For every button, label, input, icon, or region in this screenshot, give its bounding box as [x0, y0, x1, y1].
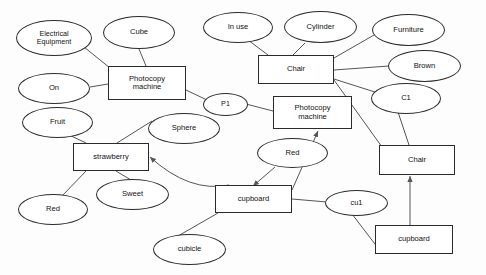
edge-on-to-photocopy_machine_1	[90, 84, 108, 87]
node-strawberry[interactable]: strawberry	[73, 143, 149, 171]
node-label-sphere: Sphere	[170, 124, 199, 133]
node-cube[interactable]: Cube	[103, 16, 175, 49]
node-cupboard_mid[interactable]: cupboard	[215, 185, 292, 213]
edge-cylinder-to-chair_top	[293, 43, 305, 55]
edge-cupboard_mid-to-cu1	[292, 199, 327, 202]
node-label-cupboard_mid: cupboard	[236, 195, 272, 204]
node-label-cubicle: cubicle	[176, 245, 204, 254]
node-label-red_cupboard: Red	[284, 149, 302, 158]
node-label-c1: C1	[399, 94, 413, 103]
diagram-canvas: ElectricalEquipmentCubeIn useCylinderFur…	[0, 0, 486, 275]
node-label-red_fruit: Red	[44, 205, 62, 214]
edge-in_use-to-chair_top	[248, 40, 268, 55]
node-red_fruit[interactable]: Red	[18, 194, 88, 225]
node-chair_right[interactable]: Chair	[379, 145, 455, 175]
edge-cupboard_mid-to-cubicle	[178, 213, 218, 236]
node-cubicle[interactable]: cubicle	[153, 234, 226, 265]
node-brown[interactable]: Brown	[388, 50, 461, 82]
edge-c1-to-chair_top	[334, 79, 378, 93]
node-label-cube: Cube	[128, 28, 150, 37]
node-cupboard_bottom[interactable]: cupboard	[375, 225, 453, 254]
edge-photocopy_machine_1-to-p1	[186, 90, 207, 100]
node-sweet[interactable]: Sweet	[96, 179, 169, 210]
edge-cube-to-photocopy_machine_1	[139, 49, 146, 66]
edge-brown-to-chair_top	[334, 66, 389, 70]
node-label-fruit: Fruit	[48, 118, 67, 127]
node-sphere[interactable]: Sphere	[148, 113, 220, 144]
node-cu1[interactable]: cu1	[325, 190, 388, 216]
node-furniture[interactable]: Furniture	[372, 14, 445, 46]
edge-strawberry-to-red_fruit	[62, 171, 86, 196]
node-label-in_use: In use	[226, 23, 251, 32]
node-on[interactable]: On	[18, 73, 90, 104]
node-label-furniture: Furniture	[391, 26, 425, 35]
node-in_use[interactable]: In use	[203, 12, 273, 43]
node-label-p1: P1	[219, 100, 232, 108]
node-red_cupboard[interactable]: Red	[257, 138, 328, 168]
node-fruit[interactable]: Fruit	[22, 107, 93, 138]
edge-p1-to-photocopy_machine_2	[246, 104, 273, 111]
node-p1[interactable]: P1	[203, 93, 248, 116]
node-photocopy_machine_2[interactable]: Photocopymachine	[273, 96, 352, 129]
node-label-on: On	[47, 84, 61, 93]
node-label-strawberry: strawberry	[91, 153, 130, 162]
edge-c1-to-chair_right	[398, 112, 409, 145]
node-chair_top[interactable]: Chair	[258, 55, 334, 84]
node-label-photocopy_machine_1: Photocopymachine	[127, 75, 167, 92]
node-label-cupboard_bottom: cupboard	[396, 235, 432, 244]
node-label-cu1: cu1	[349, 199, 365, 207]
edge-cupboard_mid-to-strawberry	[150, 157, 229, 186]
node-label-cylinder: Cylinder	[305, 23, 337, 32]
node-c1[interactable]: C1	[371, 83, 441, 114]
node-label-chair_top: Chair	[285, 65, 307, 74]
node-photocopy_machine_1[interactable]: Photocopymachine	[108, 66, 186, 100]
node-label-brown: Brown	[412, 62, 438, 71]
edge-sphere-to-strawberry	[117, 121, 152, 143]
node-label-chair_right: Chair	[406, 156, 428, 165]
node-label-photocopy_machine_2: Photocopymachine	[293, 104, 333, 121]
node-electrical_equipment[interactable]: ElectricalEquipment	[16, 20, 92, 56]
edge-red_cupboard-to-cupboard_mid	[253, 167, 275, 186]
edge-electrical_equipment-to-photocopy_machine_1	[84, 47, 110, 68]
node-label-electrical_equipment: ElectricalEquipment	[35, 30, 73, 46]
node-label-sweet: Sweet	[120, 190, 145, 199]
node-cylinder[interactable]: Cylinder	[284, 11, 357, 43]
